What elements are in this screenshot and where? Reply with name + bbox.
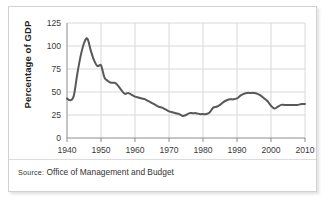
svg-text:1950: 1950 <box>91 145 110 155</box>
axis-lines-group <box>67 23 305 138</box>
svg-text:25: 25 <box>51 110 61 120</box>
svg-text:0: 0 <box>56 133 61 143</box>
source-caption: Source: Office of Management and Budget <box>18 167 174 177</box>
svg-text:1980: 1980 <box>193 145 212 155</box>
x-tick-labels-group: 19401950196019701980199020002010 <box>57 145 314 155</box>
svg-text:1960: 1960 <box>125 145 144 155</box>
line-chart-svg: 0255075100125 19401950196019701980199020… <box>9 7 316 159</box>
caption-divider <box>9 159 316 160</box>
svg-text:2000: 2000 <box>261 145 280 155</box>
chart-plot-area: Percentage of GDP 0255075100125 19401950… <box>9 7 316 159</box>
svg-text:100: 100 <box>47 41 62 51</box>
svg-text:1990: 1990 <box>227 145 246 155</box>
svg-text:50: 50 <box>51 87 61 97</box>
svg-text:1970: 1970 <box>159 145 178 155</box>
svg-text:1940: 1940 <box>57 145 76 155</box>
source-text: Office of Management and Budget <box>47 167 174 177</box>
figure-frame: Percentage of GDP 0255075100125 19401950… <box>8 6 317 192</box>
svg-text:75: 75 <box>51 64 61 74</box>
source-prefix: Source: <box>18 168 44 177</box>
x-tick-marks-group <box>67 138 305 142</box>
gridlines-group <box>67 23 305 138</box>
svg-text:125: 125 <box>47 18 62 28</box>
svg-text:2010: 2010 <box>295 145 314 155</box>
figure-container: Percentage of GDP 0255075100125 19401950… <box>0 0 329 203</box>
data-series-line <box>67 38 305 116</box>
y-tick-labels-group: 0255075100125 <box>47 18 62 143</box>
